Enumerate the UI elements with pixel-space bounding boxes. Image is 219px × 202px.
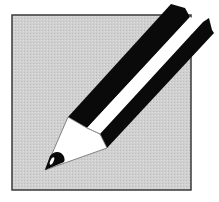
pencil-icon-canvas — [0, 0, 219, 202]
pencil-edit-icon — [0, 0, 219, 202]
